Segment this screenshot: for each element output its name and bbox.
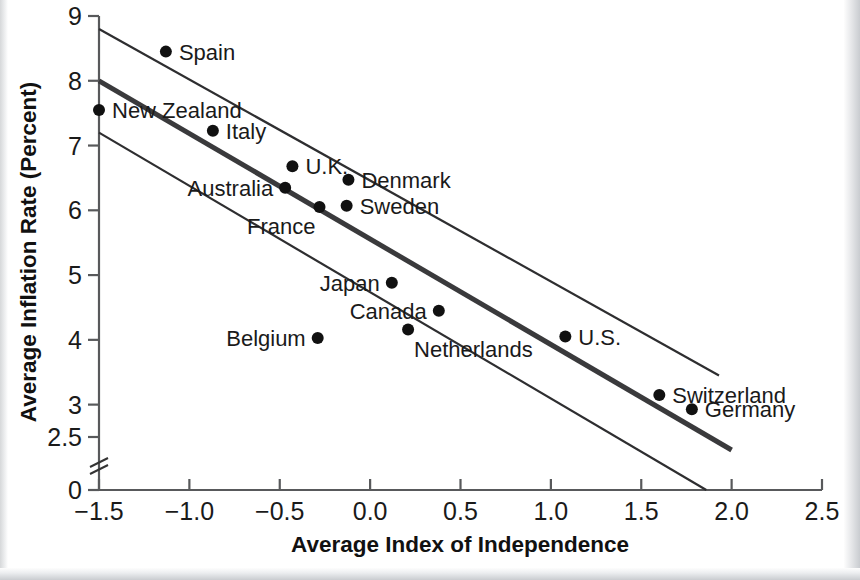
data-point-label: France [247,214,315,239]
data-point-marker [433,305,445,317]
x-axis-title: Average Index of Independence [291,532,629,557]
x-tick-label: 2.5 [805,497,840,525]
data-point-label: Germany [705,397,795,422]
y-axis-title: Average Inflation Rate (Percent) [16,82,41,423]
y-tick-label: 9 [68,2,82,30]
data-points-layer: SpainNew ZealandItalyU.K.DenmarkAustrali… [93,40,795,423]
data-point-group: New Zealand [93,98,242,123]
data-point-marker [341,200,353,212]
x-tick-label: −0.5 [255,497,304,525]
y-tick-label: 3 [68,391,82,419]
data-point-label: Italy [226,119,266,144]
data-point-label: Belgium [226,326,305,351]
y-tick-label: 4 [68,326,82,354]
x-tick-label: −1.5 [74,497,123,525]
data-point-marker [160,46,172,58]
data-point-group: U.S. [559,325,621,350]
data-point-marker [312,332,324,344]
data-point-group: Belgium [226,326,323,351]
data-point-group: Netherlands [402,323,533,362]
x-tick-label: 0.5 [443,497,478,525]
data-point-label: U.S. [578,325,621,350]
data-point-group: U.K. [286,154,348,179]
series-regression-fit [99,81,732,450]
data-point-label: Spain [179,40,235,65]
y-axis-ticks: 02.53456789 [47,2,99,504]
data-point-marker [686,403,698,415]
data-point-marker [207,125,219,137]
y-tick-label: 6 [68,196,82,224]
x-tick-label: 2.0 [714,497,749,525]
y-tick-label: 7 [68,132,82,160]
x-tick-label: −1.0 [165,497,214,525]
y-tick-label: 5 [68,261,82,289]
data-point-group: Denmark [342,168,451,193]
data-point-group: Canada [350,299,445,324]
data-point-group: France [247,201,325,239]
data-point-label: Japan [320,271,380,296]
data-point-label: Netherlands [414,337,533,362]
data-point-marker [386,277,398,289]
data-point-marker [559,331,571,343]
data-point-label: Sweden [360,194,440,219]
data-point-group: Sweden [341,194,440,219]
data-point-label: New Zealand [112,98,242,123]
data-point-label: Canada [350,299,428,324]
figure-page: 02.53456789 −1.5−1.0−0.50.00.51.01.52.02… [0,0,860,580]
data-point-marker [93,104,105,116]
x-tick-label: 1.0 [533,497,568,525]
x-axis-ticks: −1.5−1.0−0.50.00.51.01.52.02.5 [74,479,839,525]
y-tick-label: 2.5 [47,423,82,451]
data-point-group: Spain [160,40,235,65]
data-point-marker [342,174,354,186]
data-point-group: Australia [188,176,292,201]
data-point-label: Australia [188,176,274,201]
data-point-label: U.K. [305,154,348,179]
data-point-marker [279,182,291,194]
data-point-group: Japan [320,271,398,296]
scatter-plot: 02.53456789 −1.5−1.0−0.50.00.51.01.52.02… [0,0,860,580]
data-point-label: Denmark [361,168,451,193]
data-point-marker [402,323,414,335]
data-point-marker [286,160,298,172]
x-tick-label: 0.0 [353,497,388,525]
y-tick-label: 8 [68,67,82,95]
data-point-marker [314,201,326,213]
x-tick-label: 1.5 [624,497,659,525]
data-point-marker [653,389,665,401]
plot-canvas: 02.53456789 −1.5−1.0−0.50.00.51.01.52.02… [0,0,860,580]
